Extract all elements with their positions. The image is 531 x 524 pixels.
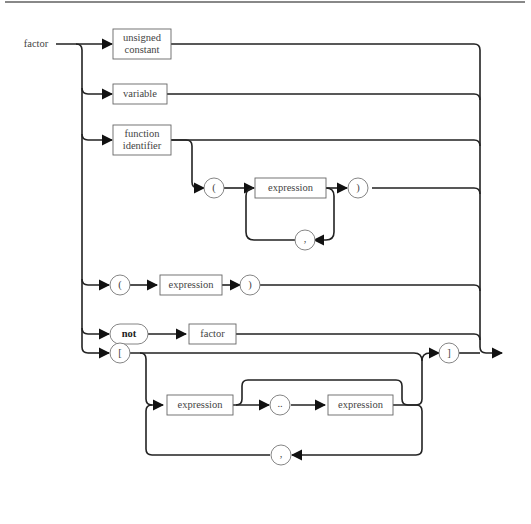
lparen-label-2: ( [110, 279, 130, 291]
range-label: .. [270, 398, 290, 410]
connector-lines [56, 44, 502, 455]
syntax-diagram-canvas [0, 0, 531, 524]
lparen-label-1: ( [204, 182, 224, 194]
lbracket-label: [ [110, 347, 130, 359]
unsigned-constant-label: unsigned constant [113, 32, 171, 56]
expression-label-2: expression [160, 279, 222, 291]
rparen-label-2: ) [240, 279, 260, 291]
expression-label-4: expression [328, 399, 393, 411]
expression-label-1: expression [255, 182, 326, 194]
comma-label-1: , [295, 233, 315, 245]
expression-label-3: expression [167, 399, 233, 411]
not-label: not [110, 328, 148, 340]
function-identifier-label: function identifier [113, 128, 171, 152]
diagram-title-factor: factor [14, 38, 58, 50]
rbracket-label: ] [439, 347, 459, 359]
factor-label: factor [189, 328, 236, 340]
comma-label-2: , [271, 448, 291, 460]
variable-label: variable [113, 88, 167, 100]
rparen-label-1: ) [348, 182, 368, 194]
